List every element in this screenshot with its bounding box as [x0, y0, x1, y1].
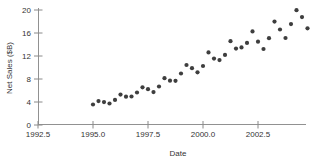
data-point [195, 70, 199, 74]
data-points [91, 8, 310, 107]
data-point [294, 8, 298, 12]
data-point [190, 66, 194, 70]
data-point [250, 29, 254, 33]
y-tick-label: 12 [22, 52, 31, 61]
data-point [118, 93, 122, 97]
data-point [261, 47, 265, 51]
data-point [135, 90, 139, 94]
data-point [162, 76, 166, 80]
data-point [96, 99, 100, 103]
data-point [223, 53, 227, 57]
y-tick-label: 8 [27, 75, 32, 84]
data-point [157, 84, 161, 88]
data-point [129, 94, 133, 98]
data-point [173, 79, 177, 83]
x-tick-label: 2000.0 [191, 130, 216, 139]
y-axis-ticks: 048121620 [22, 6, 42, 130]
data-point [140, 85, 144, 89]
data-point [272, 20, 276, 24]
net-sales-scatter-figure: 048121620 1992.51995.01997.52000.02002.5… [0, 0, 310, 166]
data-point [228, 39, 232, 43]
data-point [184, 63, 188, 67]
data-point [113, 98, 117, 102]
data-point [107, 101, 111, 105]
data-point [146, 87, 150, 91]
y-axis-title: Net Sales ($B) [5, 42, 14, 94]
y-tick-label: 4 [27, 98, 32, 107]
data-point [305, 26, 309, 30]
data-point [206, 50, 210, 54]
y-tick-label: 0 [27, 121, 32, 130]
data-point [300, 15, 304, 19]
axes [38, 8, 306, 125]
data-point [239, 45, 243, 49]
x-tick-label: 1995.0 [81, 130, 106, 139]
x-axis-title: Date [170, 149, 187, 158]
data-point [234, 47, 238, 51]
net-sales-scatter-plot: 048121620 1992.51995.01997.52000.02002.5… [0, 0, 310, 166]
data-point [245, 41, 249, 45]
data-point [283, 36, 287, 40]
data-point [289, 22, 293, 26]
data-point [91, 102, 95, 106]
data-point [168, 79, 172, 83]
x-axis-ticks: 1992.51995.01997.52000.02002.5 [26, 121, 271, 139]
data-point [217, 58, 221, 62]
data-point [102, 100, 106, 104]
data-point [278, 27, 282, 31]
data-point [151, 90, 155, 94]
x-tick-label: 2002.5 [246, 130, 271, 139]
data-point [179, 71, 183, 75]
data-point [124, 95, 128, 99]
data-point [267, 36, 271, 40]
x-tick-label: 1992.5 [26, 130, 51, 139]
x-tick-label: 1997.5 [136, 130, 161, 139]
data-point [212, 57, 216, 61]
y-tick-label: 20 [22, 6, 31, 15]
data-point [201, 64, 205, 68]
data-point [256, 40, 260, 44]
y-tick-label: 16 [22, 29, 31, 38]
